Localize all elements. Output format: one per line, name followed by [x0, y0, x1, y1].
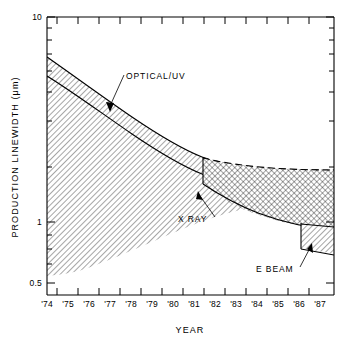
- figure-container: 10 1 0.5 '74 '75 '76 '77 '78 '79 '80 '81…: [0, 0, 343, 343]
- annotation-leader-optical-uv: [110, 75, 124, 106]
- annotation-leader-e-beam: [300, 248, 310, 267]
- x-tick-label: '76: [83, 299, 95, 309]
- x-tick-label: '81: [188, 299, 200, 309]
- x-tick-label: '84: [251, 299, 263, 309]
- x-tick-label: '79: [146, 299, 158, 309]
- optical-uv-fill: [47, 57, 334, 276]
- x-tick-label: '85: [272, 299, 284, 309]
- x-tick-label: '86: [293, 299, 305, 309]
- production-linewidth-chart: 10 1 0.5 '74 '75 '76 '77 '78 '79 '80 '81…: [0, 0, 343, 343]
- x-ray-fill: [203, 158, 334, 230]
- x-tick-label: '75: [62, 299, 74, 309]
- annotation-label-x-ray: X RAY: [178, 214, 207, 224]
- y-axis-title: PRODUCTION LINEWIDTH (μm): [10, 76, 20, 237]
- x-tick-label: '74: [41, 299, 53, 309]
- x-axis-tick-labels: '74 '75 '76 '77 '78 '79 '80 '81 '82 '83 …: [41, 299, 326, 309]
- y-tick-label-05: 0.5: [30, 278, 42, 288]
- x-tick-label: '80: [167, 299, 179, 309]
- series-band-e-beam: [301, 223, 334, 255]
- series-band-optical-uv: [47, 57, 334, 276]
- x-tick-label: '87: [314, 299, 326, 309]
- x-tick-label: '78: [125, 299, 137, 309]
- x-tick-label: '77: [104, 299, 116, 309]
- annotation-optical-uv: OPTICAL/UV: [106, 71, 186, 112]
- x-tick-label: '82: [209, 299, 221, 309]
- annotation-label-e-beam: E BEAM: [256, 264, 294, 274]
- x-axis-title: YEAR: [176, 325, 205, 335]
- series-band-x-ray: [203, 157, 334, 230]
- y-tick-label-10: 10: [32, 12, 42, 22]
- y-axis-tick-labels: 10 1 0.5: [30, 12, 42, 288]
- x-tick-label: '83: [230, 299, 242, 309]
- annotation-label-optical-uv: OPTICAL/UV: [126, 71, 186, 81]
- y-tick-label-1: 1: [37, 217, 42, 227]
